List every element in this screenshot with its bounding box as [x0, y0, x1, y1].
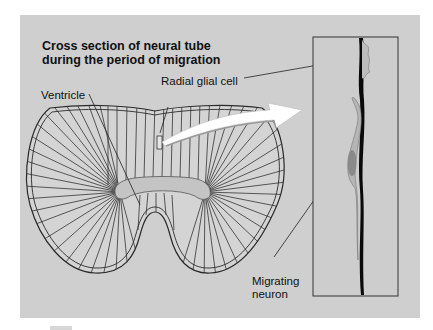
title-line-1: Cross section of neural tube [42, 39, 220, 53]
label-migrating-line-2: neuron [252, 288, 299, 301]
figure-title: Cross section of neural tube during the … [42, 39, 220, 67]
title-line-2: during the period of migration [42, 53, 220, 67]
label-migrating-neuron: Migrating neuron [252, 275, 299, 301]
label-migrating-line-1: Migrating [252, 275, 299, 288]
edge-fragment [50, 326, 72, 330]
neuron-nucleus [348, 150, 357, 176]
label-ventricle: Ventricle [41, 89, 85, 102]
glial-cell-marker [157, 136, 162, 149]
label-radial-glial-cell: Radial glial cell [161, 75, 238, 88]
